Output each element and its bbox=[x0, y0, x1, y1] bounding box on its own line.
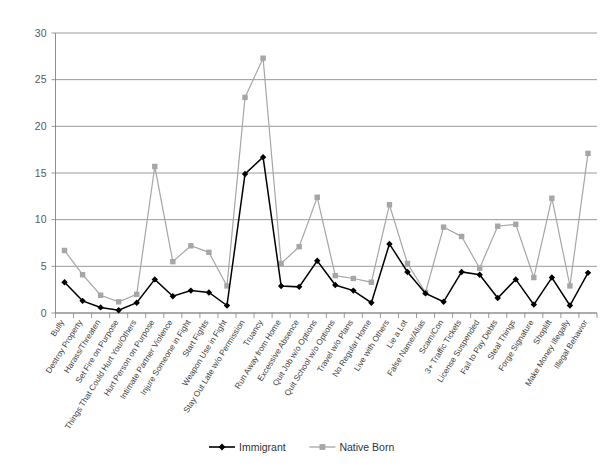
y-tick-label: 30 bbox=[35, 27, 47, 39]
data-point-marker bbox=[387, 202, 392, 207]
y-tick-label: 25 bbox=[35, 73, 47, 85]
series-line bbox=[65, 58, 588, 302]
data-point-marker bbox=[98, 293, 103, 298]
chart-legend: ImmigrantNative Born bbox=[209, 441, 394, 453]
data-point-marker bbox=[458, 269, 464, 275]
y-tick-label: 20 bbox=[35, 120, 47, 132]
legend-marker bbox=[320, 444, 326, 450]
data-point-marker bbox=[495, 224, 500, 229]
data-point-marker bbox=[585, 270, 591, 276]
data-point-marker bbox=[369, 280, 374, 285]
x-category-label: Bully bbox=[49, 318, 67, 339]
data-point-marker bbox=[188, 243, 193, 248]
chart-container: 051015202530 BullyDestroy PropertyHarass… bbox=[0, 0, 614, 468]
data-point-marker bbox=[242, 95, 247, 100]
data-point-marker bbox=[531, 275, 536, 280]
data-point-marker bbox=[440, 299, 446, 305]
series-line bbox=[65, 157, 588, 310]
data-point-marker bbox=[206, 250, 211, 255]
data-point-marker bbox=[115, 307, 121, 313]
data-point-marker bbox=[278, 283, 284, 289]
data-point-marker bbox=[80, 272, 85, 277]
y-axis-tick-marks bbox=[52, 33, 56, 313]
data-point-marker bbox=[567, 283, 572, 288]
data-point-marker bbox=[477, 266, 482, 271]
data-point-marker bbox=[513, 222, 518, 227]
gridlines-group bbox=[56, 33, 598, 313]
data-point-marker bbox=[134, 292, 139, 297]
data-point-marker bbox=[188, 287, 194, 293]
y-tick-label: 10 bbox=[35, 213, 47, 225]
data-point-marker bbox=[549, 196, 554, 201]
x-axis-category-labels: BullyDestroy PropertyHarass/ThreatenSet … bbox=[44, 318, 590, 431]
data-point-marker bbox=[315, 195, 320, 200]
y-tick-label: 0 bbox=[41, 307, 47, 319]
data-point-marker bbox=[278, 261, 283, 266]
y-axis-tick-labels: 051015202530 bbox=[35, 27, 47, 319]
data-point-marker bbox=[351, 276, 356, 281]
data-point-marker bbox=[62, 248, 67, 253]
y-tick-label: 15 bbox=[35, 167, 47, 179]
data-point-marker bbox=[459, 234, 464, 239]
x-axis-tick-marks bbox=[56, 313, 598, 318]
y-tick-label: 5 bbox=[41, 260, 47, 272]
data-point-marker bbox=[152, 164, 157, 169]
data-point-marker bbox=[441, 224, 446, 229]
data-point-marker bbox=[116, 299, 121, 304]
data-point-marker bbox=[405, 261, 410, 266]
series-native-born bbox=[62, 56, 591, 305]
data-point-marker bbox=[260, 56, 265, 61]
legend-marker bbox=[219, 444, 226, 451]
data-point-marker bbox=[296, 244, 301, 249]
line-chart: 051015202530 BullyDestroy PropertyHarass… bbox=[0, 0, 614, 468]
data-point-marker bbox=[333, 273, 338, 278]
data-point-marker bbox=[97, 304, 103, 310]
legend-label: Immigrant bbox=[239, 441, 286, 453]
data-point-marker bbox=[585, 151, 590, 156]
legend-label: Native Born bbox=[339, 441, 394, 453]
data-point-marker bbox=[170, 259, 175, 264]
series-immigrant bbox=[61, 154, 591, 313]
